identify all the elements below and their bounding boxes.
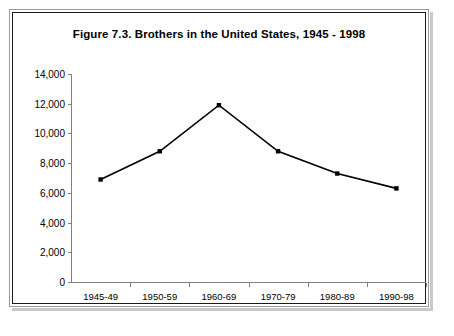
plot-area: 02,0004,0006,0008,00010,00012,00014,000 … <box>13 13 425 303</box>
data-point-marker <box>335 171 339 175</box>
data-point-marker <box>217 103 221 107</box>
figure-frame: Figure 7.3. Brothers in the United State… <box>9 9 429 307</box>
figure-inner-border: Figure 7.3. Brothers in the United State… <box>12 12 426 304</box>
data-point-marker <box>394 186 398 190</box>
line-series <box>1 1 454 336</box>
data-point-marker <box>158 149 162 153</box>
series-polyline <box>101 105 397 188</box>
data-point-marker <box>276 149 280 153</box>
data-point-marker <box>98 177 102 181</box>
